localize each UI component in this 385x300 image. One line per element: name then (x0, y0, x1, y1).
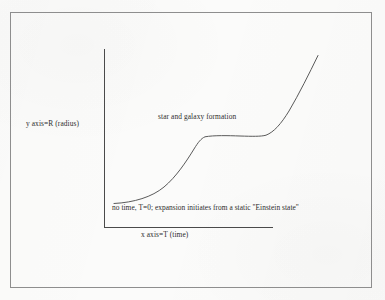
y-axis-label: y axis=R (radius) (26, 120, 79, 128)
radius-vs-time-curve (114, 56, 318, 204)
figure-page: y axis=R (radius) x axis=T (time) star a… (0, 0, 385, 300)
x-axis-label: x axis=T (time) (141, 231, 188, 239)
einstein-state-annotation: no time, T=0; expansion initiates from a… (112, 204, 299, 212)
expansion-curve-plot (0, 0, 385, 300)
star-and-galaxy-formation-annotation: star and galaxy formation (158, 113, 236, 121)
